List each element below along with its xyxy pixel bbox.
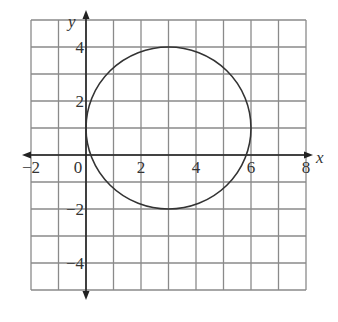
x-tick-label: 8: [302, 158, 311, 177]
y-tick-label: 2: [76, 92, 85, 111]
x-tick-label: 4: [192, 158, 201, 177]
plot-canvas: −20246842−2−4 x y: [0, 0, 338, 322]
x-tick-label: 6: [247, 158, 256, 177]
x-axis-label: x: [315, 148, 324, 167]
x-tick-label: −2: [22, 158, 40, 177]
x-tick-label: 0: [74, 158, 83, 177]
x-tick-label: 2: [137, 158, 146, 177]
y-tick-label: 4: [76, 38, 85, 57]
y-tick-label: −4: [66, 254, 85, 273]
y-axis-arrow-down-icon: [83, 291, 90, 300]
coordinate-plane: −20246842−2−4 x y: [0, 0, 338, 322]
y-tick-label: −2: [66, 200, 84, 219]
y-axis-label: y: [66, 12, 76, 31]
y-axis-arrow-up-icon: [83, 10, 90, 19]
